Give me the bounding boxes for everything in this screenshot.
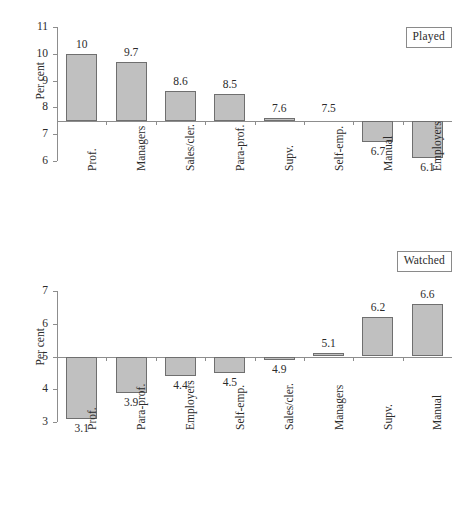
y-tick: 8 [53, 107, 57, 108]
bar-value-label: 5.1 [321, 338, 335, 350]
bar-value-label: 7.6 [272, 103, 286, 115]
bar [313, 353, 344, 356]
plot-area-played: Per cent 67891011 109.78.68.57.67.56.76.… [57, 27, 452, 161]
y-tick: 7 [53, 134, 57, 135]
bar [214, 94, 245, 121]
y-tick-label: 7 [42, 285, 48, 297]
bar-value-label: 8.6 [173, 76, 187, 88]
y-tick-label: 6 [42, 155, 48, 167]
y-tick-label: 7 [42, 128, 48, 140]
x-category-label: Self-emp. [334, 126, 346, 171]
x-category-label: Manual [383, 136, 395, 171]
x-category-label: Managers [334, 385, 346, 430]
bar-value-label: 6.2 [371, 302, 385, 314]
bar [362, 317, 393, 356]
bar [165, 91, 196, 120]
bar-value-label: 10 [76, 39, 88, 51]
x-category-label: Supv. [284, 145, 296, 171]
bar [165, 357, 196, 377]
y-tick: 9 [53, 81, 57, 82]
y-tick: 7 [53, 291, 57, 292]
y-tick-label: 8 [42, 102, 48, 114]
y-tick: 6 [53, 324, 57, 325]
bar [412, 304, 443, 356]
y-tick-label: 5 [42, 351, 48, 363]
x-category-label: Managers [136, 126, 148, 171]
figure-bar-charts: Played Per cent 67891011 109.78.68.57.67… [0, 0, 458, 506]
bar-value-label: 6.6 [420, 289, 434, 301]
x-category-label: Employers [185, 380, 197, 430]
bar-value-label: 7.5 [321, 103, 335, 115]
y-tick-label: 4 [42, 384, 48, 396]
x-category-label: Prof. [87, 148, 99, 171]
y-tick-label: 6 [42, 318, 48, 330]
series-badge-watched: Watched [397, 251, 452, 272]
y-tick: 6 [53, 161, 57, 162]
bar [214, 357, 245, 373]
bar [66, 54, 97, 121]
y-tick-label: 3 [42, 416, 48, 428]
bar-value-label: 9.7 [124, 47, 138, 59]
y-tick: 4 [53, 389, 57, 390]
x-category-label: Employers [432, 121, 444, 171]
y-tick-label: 11 [37, 21, 48, 33]
x-category-label: Prof. [87, 407, 99, 430]
y-axis-line-played [57, 27, 58, 161]
y-tick-label: 10 [37, 48, 49, 60]
bar-value-label: 4.9 [272, 364, 286, 376]
y-tick: 3 [53, 422, 57, 423]
y-tick: 11 [53, 27, 57, 28]
bar [264, 357, 295, 360]
x-category-label: Supv. [383, 404, 395, 430]
bar [264, 118, 295, 121]
y-tick-label: 9 [42, 75, 48, 87]
plot-area-watched: Per cent 34567 3.13.94.44.54.95.16.26.6 … [57, 291, 452, 422]
x-category-label: Manual [432, 395, 444, 430]
y-tick: 10 [53, 54, 57, 55]
bar [116, 62, 147, 121]
x-category-label: Self-emp. [235, 385, 247, 430]
bar-value-label: 8.5 [223, 79, 237, 91]
x-category-label: Sales/cler. [284, 383, 296, 430]
x-category-label: Para-prof. [235, 125, 247, 171]
x-category-label: Para-prof. [136, 384, 148, 430]
x-category-label: Sales/cler. [185, 124, 197, 171]
panel-played: Played Per cent 67891011 109.78.68.57.67… [0, 0, 458, 253]
